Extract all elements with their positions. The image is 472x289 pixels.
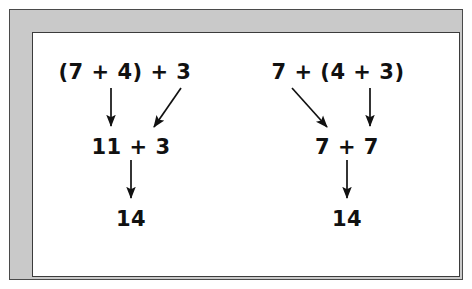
right-intermediate: 7 + 7 xyxy=(315,137,379,158)
left-expression: (7 + 4) + 3 xyxy=(59,62,192,83)
right-result: 14 xyxy=(332,209,362,230)
right-expression: 7 + (4 + 3) xyxy=(272,62,405,83)
figure-canvas: (7 + 4) + 3 11 + 3 14 7 + (4 + 3) 7 + 7 … xyxy=(0,0,472,289)
left-intermediate: 11 + 3 xyxy=(91,137,170,158)
frame-border-band xyxy=(9,9,463,280)
left-result: 14 xyxy=(116,209,146,230)
